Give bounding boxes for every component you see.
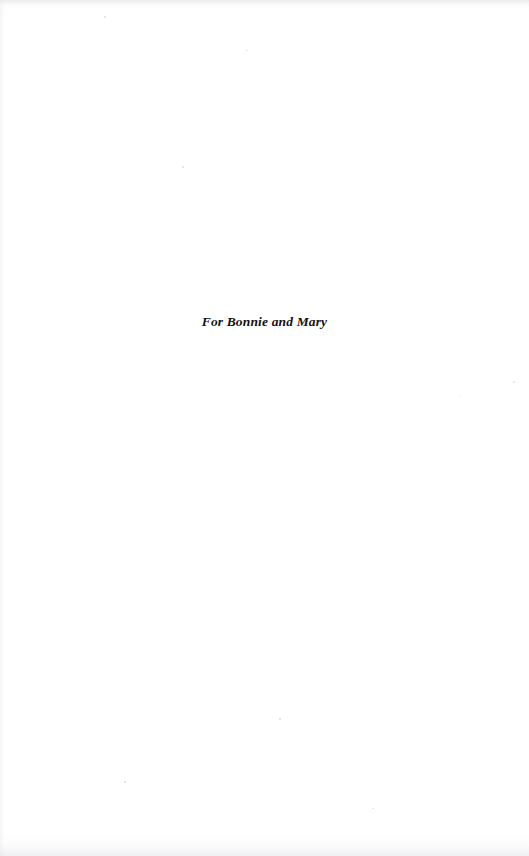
dedication-block: For Bonnie and Mary [0,312,529,330]
scan-speckle [460,396,461,397]
scan-speckle [372,808,374,809]
dedication-text: For Bonnie and Mary [202,314,328,330]
scan-speckle [124,781,126,783]
scan-speckle [246,50,248,51]
scan-speckle [513,381,515,383]
scan-edge-bottom [0,834,529,856]
scan-edge-top [0,0,529,10]
scan-speckle [279,718,281,720]
scan-edge-left [0,0,5,856]
scan-speckle [182,166,184,168]
scan-speckle [104,16,106,18]
dedication-page: For Bonnie and Mary [0,0,529,856]
